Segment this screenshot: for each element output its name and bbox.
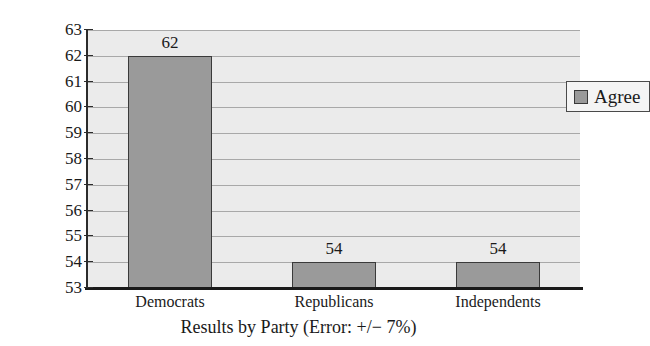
chart-legend: Agree bbox=[566, 81, 650, 112]
y-axis-tick-label: 60 bbox=[50, 98, 82, 116]
bar-value-label: 62 bbox=[130, 34, 210, 52]
y-axis-tick-label: 63 bbox=[50, 21, 82, 39]
bar bbox=[128, 56, 212, 290]
y-axis-tick-label: 58 bbox=[50, 150, 82, 168]
y-axis-tick-mark bbox=[84, 81, 93, 82]
bar bbox=[292, 262, 376, 290]
y-axis-tick-mark bbox=[84, 235, 93, 236]
x-axis-category-label: Democrats bbox=[90, 292, 250, 311]
y-axis-tick-label: 55 bbox=[50, 227, 82, 245]
y-axis-tick-label: 61 bbox=[50, 73, 82, 91]
y-axis-tick-mark bbox=[84, 261, 93, 262]
y-axis-tick-label: 62 bbox=[50, 47, 82, 65]
legend-swatch-agree bbox=[574, 90, 588, 104]
y-axis-tick-label: 53 bbox=[50, 279, 82, 297]
y-axis-tick-mark bbox=[84, 210, 93, 211]
chart-title bbox=[0, 0, 597, 2]
plot-area: 625454 Agree bbox=[88, 30, 580, 288]
y-axis-tick-labels: 6362616059585756555453 bbox=[48, 0, 82, 346]
y-axis-tick-mark bbox=[84, 132, 93, 133]
bar bbox=[456, 262, 540, 290]
y-axis-tick-mark bbox=[84, 106, 93, 107]
bar-value-label: 54 bbox=[294, 240, 374, 258]
legend-label-agree: Agree bbox=[594, 87, 640, 107]
y-axis-tick-label: 54 bbox=[50, 253, 82, 271]
y-axis-tick-label: 57 bbox=[50, 176, 82, 194]
x-axis-title: Results by Party (Error: +/− 7%) bbox=[0, 316, 597, 338]
y-axis-tick-label: 59 bbox=[50, 124, 82, 142]
gridline bbox=[88, 288, 580, 289]
y-axis-tick-mark bbox=[84, 29, 93, 30]
y-axis-tick-mark bbox=[84, 55, 93, 56]
y-axis-tick-mark bbox=[84, 158, 93, 159]
gridline bbox=[88, 30, 580, 31]
y-axis-tick-mark bbox=[84, 184, 93, 185]
x-axis-category-label: Republicans bbox=[254, 292, 414, 311]
x-axis-category-label: Independents bbox=[418, 292, 578, 311]
y-axis-tick-label: 56 bbox=[50, 202, 82, 220]
bar-value-label: 54 bbox=[458, 240, 538, 258]
y-axis-tick-mark bbox=[84, 287, 93, 288]
